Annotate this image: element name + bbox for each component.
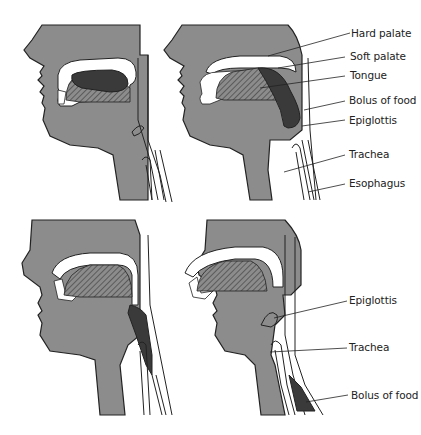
trachea (292, 144, 310, 200)
panel-bottom-left (22, 220, 172, 415)
head-tissue (22, 220, 140, 415)
label-epiglottis: Epiglottis (349, 114, 397, 126)
label-trachea: Trachea (349, 148, 389, 160)
head-tissue (24, 25, 148, 200)
label-soft-palate: Soft palate (350, 50, 406, 62)
label-trachea-bottom: Trachea (349, 341, 389, 353)
esophagus (155, 150, 172, 202)
label-hard-palate: Hard palate (351, 27, 411, 39)
panel-top-right (164, 25, 320, 200)
label-bolus-of-food: Bolus of food (349, 94, 416, 106)
panel-bottom-right (185, 220, 323, 415)
label-bolus-of-food-bottom: Bolus of food (351, 389, 418, 401)
label-epiglottis-bottom: Epiglottis (349, 294, 397, 306)
label-esophagus: Esophagus (349, 177, 405, 189)
swallowing-diagram (0, 0, 421, 435)
panel-top-left (24, 25, 172, 202)
label-tongue: Tongue (350, 69, 387, 81)
